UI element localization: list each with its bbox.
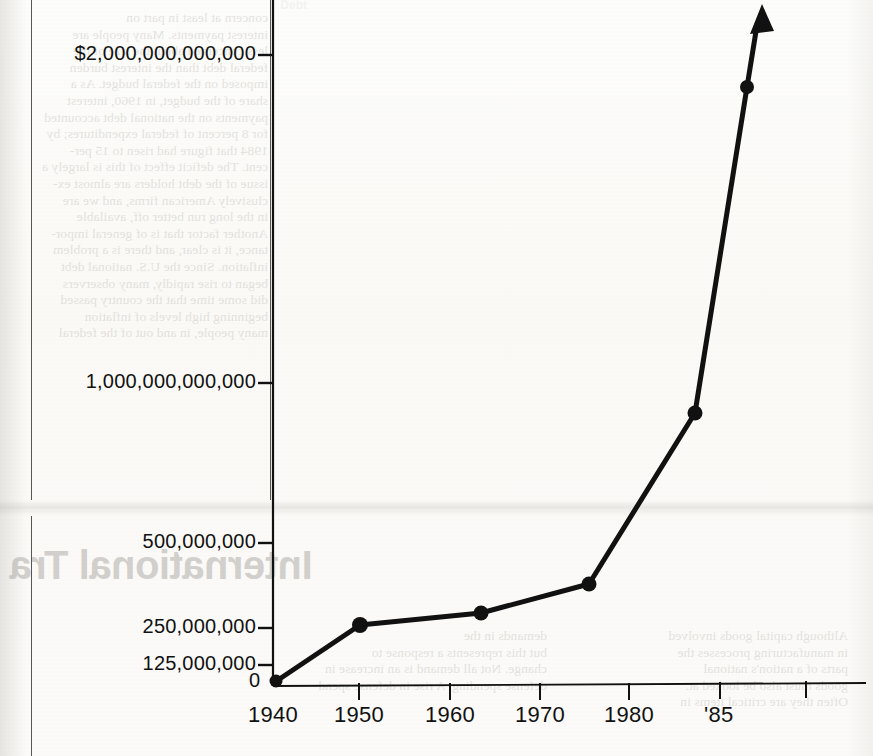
x-tick-label-1950: 1950 — [334, 702, 384, 728]
x-axis-line — [273, 683, 866, 686]
y-tick-label-250m: 250,000,000 — [143, 615, 256, 638]
data-point-1980 — [688, 406, 703, 421]
scanned-page: Debt concern at least in part on interes… — [0, 0, 873, 756]
x-tick-label-1980: 1980 — [604, 702, 654, 728]
y-axis-ticks — [258, 55, 274, 665]
y-tick-label-500m: 500,000,000 — [143, 530, 256, 553]
x-tick-label-1960: 1960 — [425, 702, 475, 728]
y-tick-label-1t: 1,000,000,000,000 — [86, 370, 256, 393]
y-tick-label-125m: 125,000,000 — [143, 652, 256, 675]
debt-trend-line — [275, 25, 757, 682]
data-point-1960 — [474, 606, 489, 621]
x-tick-label-1970: 1970 — [515, 702, 565, 728]
data-point-1940 — [270, 675, 283, 688]
y-tick-label-2t: $2,000,000,000,000 — [74, 42, 256, 65]
data-point-1950 — [352, 617, 368, 633]
x-tick-label-1940: 1940 — [248, 702, 298, 728]
x-tick-label-1985: '85 — [704, 702, 734, 728]
data-point-markers — [270, 80, 755, 688]
trend-arrowhead — [750, 4, 774, 34]
data-point-1970 — [582, 577, 597, 592]
data-point-1985 — [740, 80, 754, 94]
y-tick-label-zero: 0 — [249, 669, 260, 692]
